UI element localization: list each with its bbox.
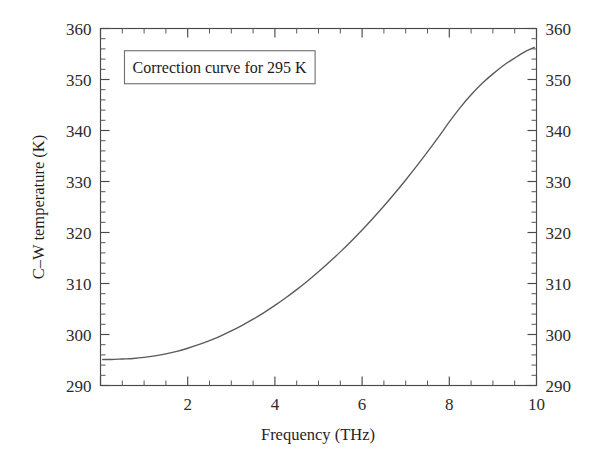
x-tick-label: 2 — [183, 395, 192, 414]
y-tick-label-right: 350 — [546, 71, 572, 90]
annotation-correction-curve-label: Correction curve for 295 K — [124, 51, 315, 84]
y-axis-title: C–W temperature (K) — [29, 135, 48, 279]
correction-curve-chart: 246810 290300310320330340350360 29030031… — [0, 0, 604, 461]
figure-container: 246810 290300310320330340350360 29030031… — [0, 0, 604, 461]
y-tick-label-right: 290 — [546, 377, 572, 396]
y-tick-label-right: 340 — [546, 122, 572, 141]
x-tick-label: 6 — [358, 395, 367, 414]
y-tick-label-left: 290 — [66, 377, 92, 396]
y-tick-label-right: 310 — [546, 275, 572, 294]
y-tick-label-left: 310 — [66, 275, 92, 294]
x-axis-title: Frequency (THz) — [261, 425, 375, 444]
y-tick-label-left: 320 — [66, 224, 92, 243]
y-tick-label-left: 330 — [66, 173, 92, 192]
y-tick-label-right: 300 — [546, 326, 572, 345]
y-tick-label-left: 360 — [66, 20, 92, 39]
annotation-text: Correction curve for 295 K — [132, 59, 307, 76]
y-tick-label-right: 360 — [546, 20, 572, 39]
x-tick-label: 10 — [528, 395, 545, 414]
y-tick-label-left: 340 — [66, 122, 92, 141]
y-tick-label-left: 300 — [66, 326, 92, 345]
y-tick-label-right: 320 — [546, 224, 572, 243]
y-tick-label-right: 330 — [546, 173, 572, 192]
x-tick-label: 8 — [445, 395, 454, 414]
x-tick-label: 4 — [271, 395, 280, 414]
y-tick-label-left: 350 — [66, 71, 92, 90]
